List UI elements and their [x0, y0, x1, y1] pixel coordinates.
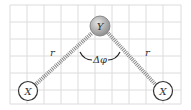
bond-angle-diagram: Δφ r r Y X X: [0, 0, 191, 110]
atom-x-left-label: X: [23, 86, 32, 97]
angle-label: Δφ: [92, 54, 107, 65]
atom-x-right-label: X: [158, 86, 167, 97]
atom-x-right: X: [154, 82, 173, 101]
diagram-canvas: Δφ r r Y X X: [0, 0, 191, 110]
atom-y: Y: [90, 16, 110, 36]
atom-x-left: X: [19, 82, 38, 101]
